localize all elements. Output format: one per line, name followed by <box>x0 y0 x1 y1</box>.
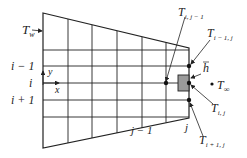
node-i-jm1 <box>164 81 168 85</box>
wall-temp-label: Tw <box>22 22 35 39</box>
diagram-canvas: Tw i − 1 i i + 1 y x j − 1 j Ti, j − 1 T… <box>0 0 247 158</box>
node-im1-j <box>187 64 191 68</box>
label-T-im1-j: Ti − 1, j <box>207 26 233 42</box>
fin-outline <box>43 13 189 148</box>
col-label-j: j <box>183 121 188 133</box>
row-label-i-plus-1: i + 1 <box>11 93 34 107</box>
row-label-i-minus-1: i − 1 <box>11 59 34 73</box>
label-T-infinity: T∞ <box>217 78 230 94</box>
row-label-i: i <box>29 76 32 90</box>
axis-x-label: x <box>54 84 60 95</box>
axis-y-label: y <box>47 66 53 77</box>
label-T-i-jm1: Ti, j − 1 <box>178 5 204 21</box>
node-ip1-j <box>187 98 191 102</box>
label-T-i-j: Ti, j <box>211 101 225 117</box>
node-i-j <box>187 81 191 85</box>
svg-text:h: h <box>203 61 209 75</box>
col-label-j-minus-1: j − 1 <box>129 124 152 136</box>
fin-grid-diagram: Tw i − 1 i i + 1 y x j − 1 j Ti, j − 1 T… <box>0 0 247 158</box>
label-T-ip1-j: Ti + 1, j <box>199 133 225 149</box>
h-bar-label: h <box>203 61 209 75</box>
ambient-dot <box>210 82 213 85</box>
